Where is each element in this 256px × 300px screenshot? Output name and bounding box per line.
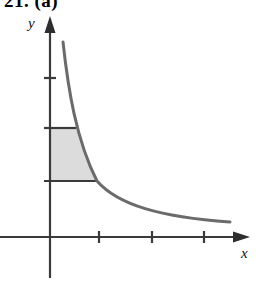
plot-area: y x — [0, 0, 256, 300]
x-axis-label: x — [240, 245, 248, 261]
figure-container: 21. (a) y x — [0, 0, 256, 300]
shaded-area — [50, 128, 97, 181]
y-axis-arrow-icon — [45, 16, 56, 33]
x-axis-arrow-icon — [233, 232, 250, 243]
y-axis-label: y — [26, 15, 35, 31]
reciprocal-curve — [63, 42, 230, 222]
